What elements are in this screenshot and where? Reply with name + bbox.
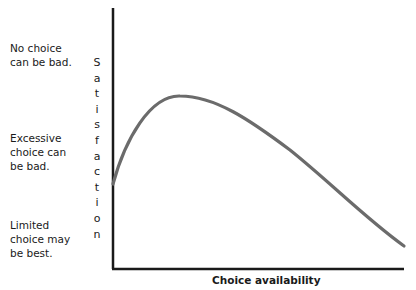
satisfaction-curve — [113, 96, 404, 246]
x-axis-label: Choice availability — [212, 274, 320, 286]
chart-plot — [0, 0, 416, 290]
